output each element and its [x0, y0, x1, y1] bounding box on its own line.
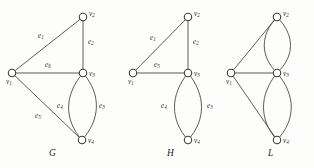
edge-H-e1 — [133, 17, 188, 73]
node-H-v2 — [184, 13, 191, 20]
edge-label-H-e5: e5 — [154, 62, 160, 69]
node-L-v3 — [273, 69, 280, 76]
edge-label-G-e4: e4 — [57, 103, 63, 110]
vertex-label-H-v2: v2 — [194, 11, 200, 18]
edge-G-e4 — [69, 73, 83, 140]
node-G-v2 — [79, 13, 86, 20]
vertex-label-G-v1: v1 — [6, 79, 12, 86]
graph-figure: v1 v2 v3 v4 e1 e2 e6 e5 e4 e3 v1 v2 v3 v… — [0, 0, 314, 168]
edge-label-H-e4: e4 — [161, 103, 167, 110]
caption-L: L — [268, 148, 273, 158]
edge-H-e3 — [188, 73, 202, 140]
edge-label-G-e2: e2 — [88, 39, 94, 46]
node-G-v1 — [8, 69, 15, 76]
caption-G: G — [49, 148, 56, 158]
edge-L-v2v3-a — [264, 17, 277, 73]
edge-label-H-e3: e3 — [207, 103, 213, 110]
edge-label-G-e1: e1 — [38, 33, 44, 40]
node-G-v3 — [79, 69, 86, 76]
edge-L-v2v3-b — [277, 17, 291, 73]
vertex-label-G-v2: v2 — [89, 11, 95, 18]
vertex-label-G-v3: v3 — [89, 71, 95, 78]
vertex-label-H-v3: v3 — [194, 71, 200, 78]
node-H-v4 — [184, 136, 191, 143]
vertex-label-L-v3: v3 — [283, 71, 289, 78]
edge-G-e5 — [12, 73, 82, 140]
vertex-label-L-v2: v2 — [283, 11, 289, 18]
node-L-v4 — [273, 136, 280, 143]
edge-L-v3v4-b — [277, 73, 291, 140]
graph-drawing-canvas — [0, 0, 314, 168]
graph-H — [129, 13, 201, 143]
node-G-v4 — [78, 136, 85, 143]
caption-H: H — [167, 148, 174, 158]
edge-label-H-e2: e2 — [193, 39, 199, 46]
edge-G-e3 — [82, 73, 96, 140]
vertex-label-L-v1: v1 — [226, 79, 232, 86]
graph-G — [8, 13, 96, 143]
vertex-label-L-v4: v4 — [283, 138, 289, 145]
node-H-v3 — [184, 69, 191, 76]
vertex-label-G-v4: v4 — [88, 138, 94, 145]
vertex-label-H-v4: v4 — [194, 138, 200, 145]
graph-L — [227, 13, 291, 143]
node-L-v2 — [273, 13, 280, 20]
edge-label-H-e1: e1 — [150, 35, 156, 42]
edge-label-G-e3: e3 — [99, 103, 105, 110]
edge-label-G-e6: e6 — [45, 62, 51, 69]
node-L-v1 — [227, 69, 234, 76]
edge-H-e4 — [175, 73, 189, 140]
vertex-label-H-v1: v1 — [128, 79, 134, 86]
edge-label-G-e5: e5 — [35, 113, 41, 120]
node-H-v1 — [129, 69, 136, 76]
